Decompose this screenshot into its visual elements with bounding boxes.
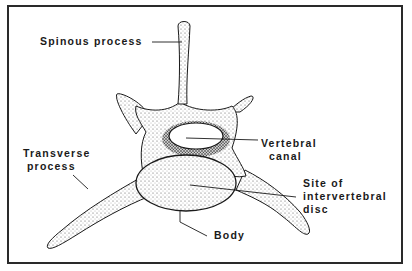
- leader-transverse: [73, 175, 88, 189]
- label-vertebral-canal: Vertebral canal: [261, 137, 317, 163]
- leader-body: [180, 211, 207, 236]
- label-spinous-process: Spinous process: [40, 35, 143, 48]
- spinous-process-shape: [178, 22, 190, 105]
- label-transverse-process: Transverse process: [23, 147, 90, 173]
- vertebral-body-shape: [136, 155, 236, 211]
- left-transverse-process-shape: [47, 178, 150, 248]
- label-body: Body: [214, 229, 245, 242]
- label-site-of-intervertebral-disc: Site of intervertebral disc: [303, 177, 387, 216]
- vertebral-canal-shape: [169, 123, 223, 149]
- right-transverse-process-shape: [236, 170, 310, 234]
